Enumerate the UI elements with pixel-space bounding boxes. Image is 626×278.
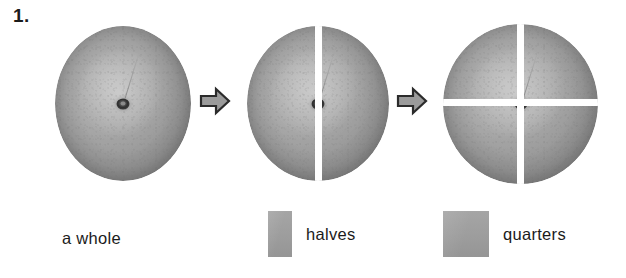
orange-stem-scar-icon xyxy=(117,98,130,109)
legend-label-halves: halves xyxy=(306,225,356,244)
orange-halves xyxy=(247,26,389,181)
orange-quarters xyxy=(443,24,598,184)
legend-swatch-halves xyxy=(268,211,292,257)
legend-swatch-quarters xyxy=(443,211,489,257)
orange-whole xyxy=(55,26,191,181)
cut-line-vertical xyxy=(315,26,322,181)
legend-item-quarters: quarters xyxy=(443,211,566,257)
question-number: 1. xyxy=(13,6,30,25)
arrow-whole-to-halves xyxy=(199,86,231,120)
legend-label-a-whole: a whole xyxy=(62,229,121,248)
cut-line-horizontal xyxy=(443,99,598,106)
legend-item-halves: halves xyxy=(268,211,356,257)
worksheet-figure: 1. a whole xyxy=(0,0,626,278)
legend-label-quarters: quarters xyxy=(503,225,566,244)
arrow-halves-to-quarters xyxy=(396,86,428,120)
